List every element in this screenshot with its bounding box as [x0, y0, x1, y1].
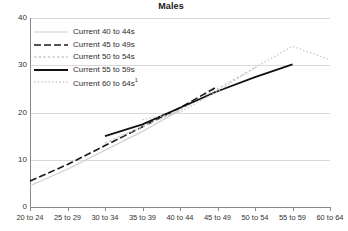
legend-item[interactable]: Current 50 to 54s — [34, 51, 138, 64]
legend-item[interactable]: Current 60 to 64s1 — [34, 76, 138, 89]
chart-legend: Current 40 to 44sCurrent 45 to 49sCurren… — [34, 26, 138, 89]
series-line-4 — [143, 46, 331, 119]
series-line-0 — [30, 110, 180, 186]
legend-swatch-icon — [34, 27, 68, 37]
legend-swatch-icon — [34, 65, 68, 75]
legend-swatch-icon — [34, 52, 68, 62]
legend-swatch-icon — [34, 40, 68, 50]
legend-item[interactable]: Current 40 to 44s — [34, 26, 138, 39]
legend-footnote-marker: 1 — [135, 77, 138, 83]
legend-label: Current 45 to 49s — [73, 40, 135, 50]
legend-label: Current 55 to 59s — [73, 65, 135, 75]
legend-item[interactable]: Current 45 to 49s — [34, 39, 138, 52]
series-line-1 — [30, 87, 218, 182]
legend-swatch-icon — [34, 77, 68, 87]
legend-label: Current 50 to 54s — [73, 52, 135, 62]
legend-label: Current 40 to 44s — [73, 27, 135, 37]
legend-item[interactable]: Current 55 to 59s — [34, 64, 138, 77]
legend-label: Current 60 to 64s1 — [73, 75, 138, 89]
